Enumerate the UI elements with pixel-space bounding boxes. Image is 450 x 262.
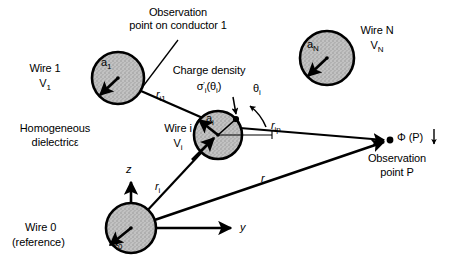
wire-n-label: Wire N [360, 24, 393, 37]
vector-r [131, 142, 384, 228]
wire-n-potential-subscript: N [378, 45, 384, 54]
charge-density-title-text: Charge density [173, 64, 246, 76]
axis-z-label: z [126, 163, 131, 176]
wire-0-radius-subscript: 0 [118, 242, 122, 251]
y-label-text: y [240, 221, 245, 233]
theta-subscript: i [259, 88, 261, 97]
observation-point-caption-line1: Observation [368, 152, 426, 165]
sigma-paren-close: ) [218, 80, 222, 92]
charge-density-title: Charge density [173, 64, 246, 77]
wire-n-potential: VN [371, 39, 384, 53]
wire-i-potential-subscript: i [181, 143, 183, 152]
wire-i-radius-subscript: i [212, 118, 214, 127]
wire-i-potential: Vi [174, 137, 183, 151]
wire-1-radius-label: a1 [101, 56, 111, 70]
r-i1-subscript: i1 [160, 94, 166, 103]
homogeneous-text: Homogeneous [20, 122, 90, 134]
observation-point-marker [387, 137, 394, 144]
wire-1-name: Wire 1 [29, 62, 60, 74]
wire-1-potential-subscript: 1 [46, 83, 50, 92]
wire-0-name: Wire 0 [25, 221, 56, 233]
r-i-subscript: i [159, 186, 161, 195]
wire-0-reference-text: (reference) [12, 236, 65, 248]
phi-symbol: Φ [397, 131, 406, 143]
phi-argument: (P) [409, 131, 423, 143]
sigma-arg-subscript: i [216, 86, 218, 95]
angle-theta-i-label: θi [253, 82, 261, 96]
homogeneous-dielectric-line2: dielectricε [32, 136, 79, 149]
wire-i-name: Wire i [164, 122, 192, 134]
vector-r-ip [228, 127, 384, 140]
z-label-text: z [126, 163, 131, 175]
wire-0-reference-label: (reference) [12, 236, 65, 249]
observation-on-conductor-line2: point on conductor 1 [129, 19, 227, 31]
dielectric-text: dielectric [32, 136, 74, 148]
wire-1-potential: V1 [39, 77, 51, 91]
figure-canvas: Observation point on conductor 1 Wire 1 … [0, 0, 450, 262]
r-ip-subscript: ip [275, 125, 281, 134]
wire-n-name: Wire N [360, 24, 393, 36]
epsilon-symbol: ε [74, 137, 78, 148]
vector-r-i1-label: ri1 [156, 88, 166, 102]
conductor-wire-1[interactable] [92, 52, 144, 104]
conductor-wire-i[interactable] [192, 106, 272, 160]
angle-arc-theta-i [250, 106, 266, 127]
sigma-subscript: i [205, 86, 207, 95]
wire-i-radius-label: ai [206, 112, 214, 126]
observation-on-conductor-caption: Observation point on conductor 1 [129, 6, 227, 32]
wire-1-label: Wire 1 [29, 62, 60, 75]
sigma-symbol: σ [197, 80, 204, 92]
wire-0-radius-label: a0 [112, 236, 122, 250]
axis-y-label: y [240, 221, 245, 234]
observation-point-line1-text: Observation [368, 152, 426, 164]
wire-0-label: Wire 0 [25, 221, 56, 234]
wire-n-radius-subscript: N [313, 44, 319, 53]
observation-point-caption-line2: point P [380, 166, 414, 179]
vector-r-i-label: ri [155, 180, 160, 194]
leader-charge-density [233, 97, 236, 114]
charge-density-symbol: σ'i(θi) [197, 80, 222, 94]
potential-at-p-label: Φ (P) [397, 131, 423, 144]
vector-r-label: r [261, 172, 265, 185]
wire-i-label: Wire i [164, 122, 192, 135]
vector-r-ip-label: rip [271, 119, 281, 133]
wire-n-radius-label: aN [307, 38, 319, 52]
observation-on-conductor-line1: Observation [149, 6, 207, 18]
homogeneous-dielectric-line1: Homogeneous [20, 122, 90, 135]
wire-1-radius-subscript: 1 [107, 62, 111, 71]
r-symbol: r [261, 172, 265, 184]
observation-point-line2-text: point P [380, 166, 414, 178]
